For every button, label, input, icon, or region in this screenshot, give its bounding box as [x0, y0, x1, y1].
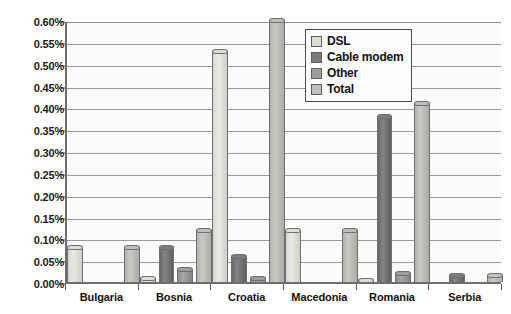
- legend-item-cable-modem[interactable]: Cable modem: [311, 49, 404, 65]
- bar-cap: [269, 18, 285, 23]
- bar-cap: [377, 114, 393, 119]
- y-axis-tick-label: 0.40%: [34, 103, 64, 115]
- chart-legend: DSLCable modemOtherTotal: [305, 29, 412, 102]
- legend-swatch-icon: [311, 68, 322, 79]
- bar: [487, 275, 503, 282]
- y-axis-tick-label: 0.35%: [34, 125, 64, 137]
- x-axis-label-serbia: Serbia: [448, 291, 481, 303]
- y-axis-tick-label: 0.60%: [34, 16, 64, 28]
- bar: [67, 247, 83, 282]
- bar-cap: [250, 276, 266, 281]
- bar-cap: [196, 228, 212, 233]
- x-axis-tick: [356, 284, 357, 290]
- bar-group: [212, 22, 285, 282]
- x-axis-tick: [501, 284, 502, 290]
- legend-label: Total: [327, 82, 354, 96]
- x-axis-tick: [428, 284, 429, 290]
- y-axis-tick-label: 0.30%: [34, 147, 64, 159]
- legend-swatch-icon: [311, 52, 322, 63]
- bar: [250, 278, 266, 282]
- x-axis-tick: [138, 284, 139, 290]
- bar-cap: [231, 254, 247, 259]
- x-axis-tick: [210, 284, 211, 290]
- bar: [414, 103, 430, 282]
- bar: [212, 51, 228, 282]
- legend-item-other[interactable]: Other: [311, 65, 404, 81]
- x-axis-tick: [283, 284, 284, 290]
- bar-cap: [449, 273, 465, 278]
- bar-group: [430, 22, 503, 282]
- bar-cap: [342, 228, 358, 233]
- bar: [177, 269, 193, 282]
- bar: [231, 256, 247, 282]
- plot-inner: [67, 22, 501, 282]
- x-axis-label-macedonia: Macedonia: [291, 291, 347, 303]
- bar-cap: [358, 278, 374, 283]
- bar-cap: [285, 228, 301, 233]
- y-axis-tick-label: 0.00%: [34, 278, 64, 290]
- bar-cap: [124, 245, 140, 250]
- bar: [159, 247, 175, 282]
- bar-cap: [159, 245, 175, 250]
- y-axis-tick-label: 0.15%: [34, 213, 64, 225]
- legend-label: DSL: [327, 34, 350, 48]
- y-axis-tick-label: 0.20%: [34, 191, 64, 203]
- legend-item-dsl[interactable]: DSL: [311, 33, 404, 49]
- bar-chart: 0.00%0.05%0.10%0.15%0.20%0.25%0.30%0.35%…: [0, 0, 511, 314]
- y-axis-tick-label: 0.10%: [34, 234, 64, 246]
- bar: [342, 230, 358, 282]
- x-axis-label-bulgaria: Bulgaria: [80, 291, 123, 303]
- x-axis-label-croatia: Croatia: [228, 291, 265, 303]
- bar: [358, 280, 374, 282]
- y-axis-tick-label: 0.05%: [34, 256, 64, 268]
- bar: [377, 116, 393, 282]
- legend-swatch-icon: [311, 84, 322, 95]
- plot-area: [65, 22, 501, 284]
- legend-label: Cable modem: [327, 50, 404, 64]
- bar-group: [67, 22, 140, 282]
- y-axis-tick-label: 0.55%: [34, 38, 64, 50]
- legend-item-total[interactable]: Total: [311, 81, 404, 97]
- legend-label: Other: [327, 66, 358, 80]
- bar: [269, 20, 285, 282]
- bar-cap: [212, 49, 228, 54]
- legend-swatch-icon: [311, 36, 322, 47]
- bar: [196, 230, 212, 282]
- x-axis-tick: [65, 284, 66, 290]
- bar-cap: [177, 267, 193, 272]
- bar: [124, 247, 140, 282]
- x-axis-label-romania: Romania: [369, 291, 415, 303]
- bar-cap: [67, 245, 83, 250]
- y-axis-tick-label: 0.25%: [34, 169, 64, 181]
- bar-cap: [395, 271, 411, 276]
- bar-cap: [487, 273, 503, 278]
- bar-group: [140, 22, 213, 282]
- x-axis-label-bosnia: Bosnia: [156, 291, 192, 303]
- bar-cap: [140, 276, 156, 281]
- bar-cap: [414, 101, 430, 106]
- y-axis-tick-label: 0.50%: [34, 60, 64, 72]
- bar: [140, 278, 156, 282]
- bar: [285, 230, 301, 282]
- y-axis-tick-label: 0.45%: [34, 82, 64, 94]
- bar: [395, 273, 411, 282]
- bar: [449, 275, 465, 282]
